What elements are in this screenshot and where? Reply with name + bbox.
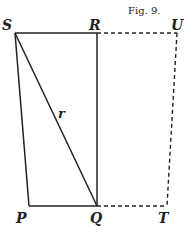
figure-9-diagram: Fig. 9. S R U P Q T r [0, 0, 190, 235]
label-U: U [171, 17, 184, 33]
label-Q: Q [90, 210, 102, 226]
label-T: T [158, 210, 170, 226]
figure-caption: Fig. 9. [128, 5, 160, 16]
label-r: r [58, 106, 66, 121]
label-R: R [88, 17, 101, 33]
label-P: P [15, 210, 27, 226]
dashed-edge-UT [167, 33, 177, 206]
label-S: S [2, 17, 12, 33]
